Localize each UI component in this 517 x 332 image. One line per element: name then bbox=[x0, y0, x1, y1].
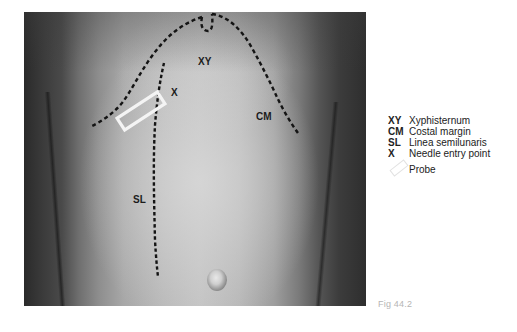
legend-abbr: XY bbox=[388, 115, 401, 126]
probe-rectangle bbox=[117, 92, 165, 130]
legend-item-probe: Probe bbox=[388, 162, 513, 176]
legend-item-x: X Needle entry point bbox=[388, 148, 513, 159]
legend-text: Costal margin bbox=[409, 126, 471, 137]
legend-text: Linea semilunaris bbox=[409, 137, 487, 148]
legend-abbr: SL bbox=[388, 137, 401, 148]
legend-text: Xyphisternum bbox=[409, 115, 470, 126]
legend: XY Xyphisternum CM Costal margin SL Line… bbox=[388, 115, 513, 176]
probe-rectangle-icon bbox=[389, 159, 408, 176]
legend-item-cm: CM Costal margin bbox=[388, 126, 513, 137]
costal-margin-right-line bbox=[212, 14, 298, 133]
label-x: X bbox=[171, 88, 178, 98]
label-cm: CM bbox=[256, 112, 272, 122]
legend-abbr: X bbox=[388, 148, 395, 159]
figure-caption: Fig 44.2 bbox=[378, 299, 412, 309]
xiphisternum-notch-line bbox=[201, 14, 212, 31]
legend-item-xy: XY Xyphisternum bbox=[388, 115, 513, 126]
legend-text: Probe bbox=[409, 164, 436, 175]
legend-item-sl: SL Linea semilunaris bbox=[388, 137, 513, 148]
costal-margin-left-line bbox=[92, 17, 202, 126]
label-sl: SL bbox=[133, 195, 146, 205]
label-xy: XY bbox=[198, 57, 211, 67]
legend-abbr: CM bbox=[388, 126, 404, 137]
legend-text: Needle entry point bbox=[409, 148, 490, 159]
